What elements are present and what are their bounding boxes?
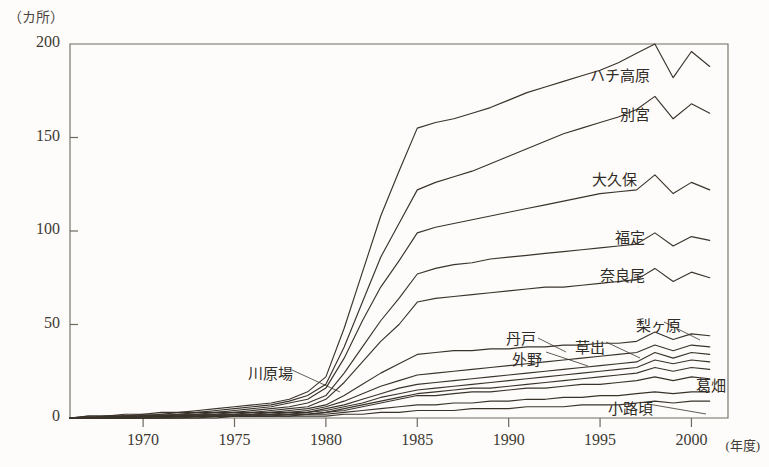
- series-label-大久保: 大久保: [592, 168, 637, 189]
- series-label-別宮: 別宮: [620, 103, 650, 124]
- series-label-葛畑: 葛畑: [696, 374, 726, 395]
- y-tick-label-200: 200: [8, 33, 60, 51]
- label-leader-line: [292, 370, 340, 392]
- x-tick-label-1995: 1995: [565, 431, 635, 449]
- series-label-川原場: 川原場: [248, 362, 293, 383]
- y-tick-label-50: 50: [8, 314, 60, 332]
- x-tick-label-2000: 2000: [656, 431, 726, 449]
- x-tick-label-1970: 1970: [108, 431, 178, 449]
- series-label-丹戸: 丹戸: [506, 327, 536, 348]
- chart-figure: （カ所） 050100150200 1970197519801985199019…: [0, 0, 769, 467]
- label-leader-line: [648, 404, 706, 414]
- series-line-4: [70, 233, 710, 418]
- series-layer: [70, 44, 710, 418]
- series-line-3: [70, 175, 710, 418]
- x-axis-unit-label: (年度): [725, 435, 760, 454]
- series-label-ハチ高原: ハチ高原: [590, 64, 650, 85]
- x-tick-label-1980: 1980: [291, 431, 361, 449]
- line-chart-canvas: [0, 0, 769, 467]
- series-label-福定: 福定: [615, 226, 645, 247]
- series-label-草出: 草出: [575, 336, 605, 357]
- series-label-奈良尾: 奈良尾: [600, 264, 645, 285]
- y-tick-label-150: 150: [8, 127, 60, 145]
- series-line-1: [70, 44, 710, 418]
- x-tick-label-1985: 1985: [382, 431, 452, 449]
- series-label-小路頃: 小路頃: [608, 397, 653, 418]
- x-tick-label-1990: 1990: [474, 431, 544, 449]
- series-label-梨ヶ原: 梨ヶ原: [636, 314, 681, 335]
- y-tick-label-100: 100: [8, 220, 60, 238]
- series-label-外野: 外野: [512, 348, 542, 369]
- x-tick-label-1975: 1975: [200, 431, 270, 449]
- y-tick-label-0: 0: [8, 407, 60, 425]
